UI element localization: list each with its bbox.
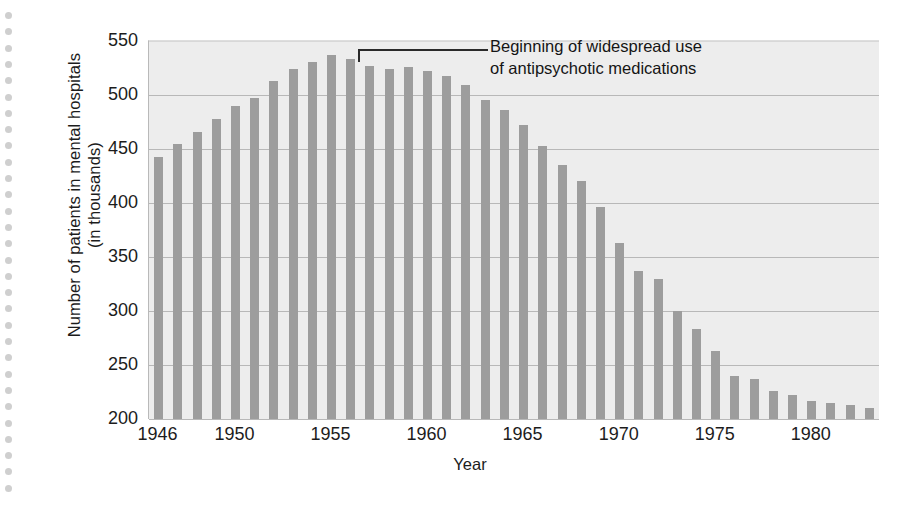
bar-series xyxy=(149,41,879,419)
bar xyxy=(346,59,355,419)
decorative-dot xyxy=(5,45,12,52)
decorative-dot xyxy=(5,305,12,312)
decorative-dot xyxy=(5,159,12,166)
decorative-dot xyxy=(5,289,12,296)
x-axis-tick-label: 1980 xyxy=(791,424,831,445)
bar xyxy=(289,69,298,419)
decorative-dot xyxy=(5,61,12,68)
bar xyxy=(730,376,739,419)
bar xyxy=(634,271,643,419)
bar xyxy=(692,329,701,419)
chart-figure: Number of patients in mental hospitals (… xyxy=(22,0,918,505)
decorative-dot xyxy=(5,273,12,280)
decorative-dot xyxy=(5,371,12,378)
x-axis-tick-label: 1946 xyxy=(138,424,178,445)
y-axis-tick-label: 500 xyxy=(28,84,138,105)
bar xyxy=(788,395,797,419)
annotation-leader-horizontal xyxy=(358,49,488,51)
bar xyxy=(654,279,663,419)
annotation-leader-vertical xyxy=(358,49,360,62)
decorative-dot xyxy=(5,191,12,198)
decorative-dot xyxy=(5,322,12,329)
bar xyxy=(826,403,835,419)
annotation-label: Beginning of widespread use of antipsych… xyxy=(490,36,702,80)
bar xyxy=(769,391,778,419)
decorative-dot xyxy=(5,354,12,361)
x-axis-tick-label: 1955 xyxy=(310,424,350,445)
bar xyxy=(308,62,317,419)
bar xyxy=(327,55,336,419)
x-axis-tick-label: 1960 xyxy=(407,424,447,445)
bar xyxy=(250,98,259,419)
decorative-dot xyxy=(5,77,12,84)
y-axis-tick-label: 350 xyxy=(28,246,138,267)
bar xyxy=(807,401,816,419)
bar xyxy=(615,243,624,419)
y-axis-tick-label: 200 xyxy=(28,408,138,429)
decorative-dot xyxy=(5,436,12,443)
bar xyxy=(846,405,855,419)
y-axis-tick-label: 250 xyxy=(28,354,138,375)
bar xyxy=(596,207,605,419)
decorative-dot xyxy=(5,94,12,101)
decorative-dot xyxy=(5,126,12,133)
x-axis-title: Year xyxy=(22,455,918,474)
bar xyxy=(269,81,278,419)
annotation-leader-line xyxy=(358,49,488,63)
decorative-dot xyxy=(5,485,12,492)
bar xyxy=(193,132,202,419)
y-axis-tick-label: 550 xyxy=(28,30,138,51)
bar xyxy=(750,379,759,419)
bar xyxy=(711,351,720,419)
bar xyxy=(865,408,874,419)
bar xyxy=(558,165,567,419)
y-axis-tick-label: 450 xyxy=(28,138,138,159)
x-axis-tick-label: 1975 xyxy=(695,424,735,445)
y-axis-tick-label: 300 xyxy=(28,300,138,321)
decorative-dot xyxy=(5,420,12,427)
gridline xyxy=(149,419,879,420)
bar xyxy=(423,71,432,419)
y-axis-tick-labels: 550500450400350300250200 xyxy=(22,0,148,460)
decorative-dot xyxy=(5,403,12,410)
annotation-line-1: Beginning of widespread use xyxy=(490,37,702,55)
decorative-dot xyxy=(5,224,12,231)
decorative-dot xyxy=(5,468,12,475)
decorative-dot xyxy=(5,142,12,149)
plot-area xyxy=(148,40,879,419)
decorative-dot-rail xyxy=(0,0,22,505)
decorative-dot xyxy=(5,12,12,19)
decorative-dot xyxy=(5,175,12,182)
decorative-dot xyxy=(5,240,12,247)
bar xyxy=(519,125,528,419)
y-axis-tick-label: 400 xyxy=(28,192,138,213)
decorative-dot xyxy=(5,257,12,264)
bar xyxy=(673,311,682,419)
bar xyxy=(404,67,413,419)
x-axis-tick-labels: 19461950195519601965197019751980 xyxy=(148,424,878,454)
annotation-line-2: of antipsychotic medications xyxy=(490,58,702,80)
x-axis-tick-label: 1950 xyxy=(214,424,254,445)
bar xyxy=(481,100,490,419)
decorative-dot xyxy=(5,110,12,117)
decorative-dot xyxy=(5,452,12,459)
bar xyxy=(577,181,586,419)
decorative-dot xyxy=(5,387,12,394)
x-axis-tick-label: 1965 xyxy=(503,424,543,445)
bar xyxy=(231,106,240,419)
bar xyxy=(173,144,182,419)
bar xyxy=(538,146,547,419)
x-axis-tick-label: 1970 xyxy=(599,424,639,445)
bar xyxy=(385,69,394,419)
bar xyxy=(365,66,374,419)
bar xyxy=(442,76,451,419)
bar xyxy=(500,110,509,419)
decorative-dot xyxy=(5,208,12,215)
decorative-dot xyxy=(5,28,12,35)
decorative-dot xyxy=(5,338,12,345)
bar xyxy=(154,157,163,419)
bar xyxy=(461,85,470,419)
bar xyxy=(212,119,221,419)
